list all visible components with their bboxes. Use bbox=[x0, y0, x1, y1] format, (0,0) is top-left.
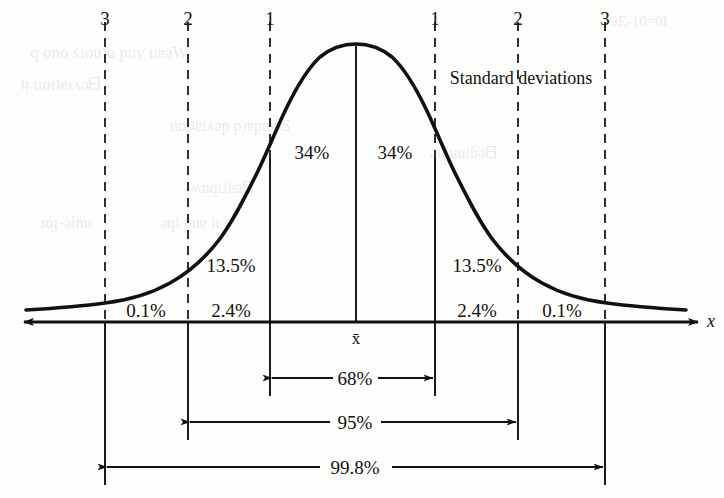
region-label-0.1-right: 0.1% bbox=[542, 301, 582, 320]
region-label-13.5-right: 13.5% bbox=[452, 256, 501, 275]
region-label-34-right: 34% bbox=[378, 143, 413, 162]
normal-distribution-figure: 9E-10=0Iq ono sɹouʇo puv uɐǝWʇᴉ uoıʇɐıʌǝ… bbox=[0, 0, 724, 498]
sd-tick-label-plus1: 1 bbox=[430, 9, 440, 28]
span-label-99.8: 99.8% bbox=[326, 458, 383, 477]
region-label-2.4-right: 2.4% bbox=[457, 301, 497, 320]
sd-tick-label-plus2: 2 bbox=[513, 9, 523, 28]
sd-tick-label-plus3: 3 bbox=[600, 9, 610, 28]
sd-tick-label-minus1: 1 bbox=[265, 9, 275, 28]
sd-tick-label-minus2: 2 bbox=[183, 9, 193, 28]
mean-label: x̄ bbox=[352, 330, 361, 347]
region-label-34-left: 34% bbox=[295, 143, 330, 162]
region-label-13.5-left: 13.5% bbox=[206, 256, 255, 275]
solid-sigma-lines bbox=[270, 46, 435, 322]
standard-deviations-caption: Standard deviations bbox=[450, 69, 592, 87]
region-label-0.1-left: 0.1% bbox=[126, 301, 166, 320]
x-axis-label: x bbox=[707, 312, 715, 330]
span-label-95: 95% bbox=[334, 413, 377, 432]
region-label-2.4-left: 2.4% bbox=[211, 301, 251, 320]
span-label-68: 68% bbox=[334, 369, 377, 388]
sd-tick-label-minus3: 3 bbox=[100, 9, 110, 28]
